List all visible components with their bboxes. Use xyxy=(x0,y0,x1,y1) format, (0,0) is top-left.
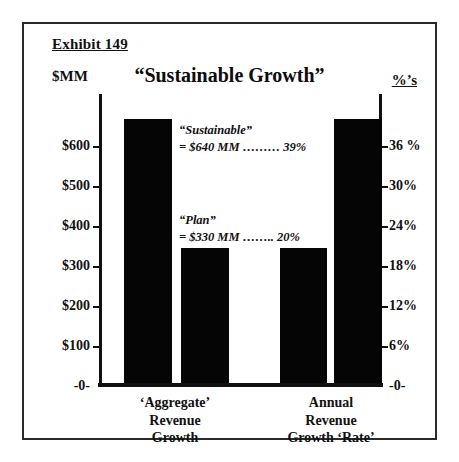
right-axis-unit-label: %’s xyxy=(392,72,417,89)
right-tick xyxy=(381,146,388,148)
category-label-line: Annual xyxy=(251,394,411,412)
annotation-plan-title: “Plan” xyxy=(179,212,300,229)
bar-aggregate-sustainable xyxy=(124,119,172,383)
left-axis-tick-label: -0- xyxy=(30,379,90,393)
left-tick xyxy=(93,306,100,308)
right-tick xyxy=(381,226,388,228)
right-axis-tick-label: 18% xyxy=(389,259,449,273)
left-axis-tick-label: $600 xyxy=(30,139,90,153)
annotation-sustainable-title: “Sustainable” xyxy=(179,122,306,139)
annotation-sustainable-value: = $640 MM ……… 39% xyxy=(179,139,306,156)
category-label-line: Revenue xyxy=(95,412,255,430)
category-label-line: ‘Aggregate’ xyxy=(95,394,255,412)
right-axis-tick-label: 24% xyxy=(389,219,449,233)
right-tick xyxy=(381,346,388,348)
left-axis-tick-label: $300 xyxy=(30,259,90,273)
left-axis-tick-label: $400 xyxy=(30,219,90,233)
annotation-plan: “Plan” = $330 MM …….. 20% xyxy=(179,212,300,246)
right-tick xyxy=(381,186,388,188)
left-tick xyxy=(93,146,100,148)
baseline-axis xyxy=(98,383,383,387)
category-label-aggregate: ‘Aggregate’ Revenue Growth xyxy=(95,394,255,447)
left-axis-line xyxy=(99,94,102,386)
exhibit-label: Exhibit 149 xyxy=(52,36,128,53)
left-axis-tick-label: $100 xyxy=(30,339,90,353)
right-tick xyxy=(381,266,388,268)
left-axis-unit-label: $MM xyxy=(52,68,88,85)
bar-aggregate-plan xyxy=(181,248,229,383)
category-label-line: Revenue xyxy=(251,412,411,430)
annotation-sustainable: “Sustainable” = $640 MM ……… 39% xyxy=(179,122,306,156)
left-tick xyxy=(93,226,100,228)
left-tick xyxy=(93,266,100,268)
left-axis-tick-label: $500 xyxy=(30,179,90,193)
right-axis-tick-label: 36 % xyxy=(389,139,449,153)
right-tick xyxy=(381,306,388,308)
bar-annual-plan xyxy=(280,248,327,383)
right-axis-tick-label: 12% xyxy=(389,299,449,313)
bar-annual-sustainable xyxy=(334,119,382,383)
right-axis-tick-label: 30% xyxy=(389,179,449,193)
annotation-plan-value: = $330 MM …….. 20% xyxy=(179,229,300,246)
left-axis-tick-label: $200 xyxy=(30,299,90,313)
exhibit-frame: Exhibit 149 “Sustainable Growth” $MM %’s… xyxy=(22,22,437,440)
left-tick xyxy=(93,346,100,348)
plot-area: $600 $500 $400 $300 $200 $100 -0- 36 % 3… xyxy=(99,94,382,390)
right-axis-tick-label: 6% xyxy=(389,339,449,353)
left-tick xyxy=(93,186,100,188)
category-label-line: Growth xyxy=(95,429,255,447)
right-axis-tick-label: -0- xyxy=(389,379,449,393)
category-label-line: Growth ‘Rate’ xyxy=(251,429,411,447)
category-label-annual: Annual Revenue Growth ‘Rate’ xyxy=(251,394,411,447)
